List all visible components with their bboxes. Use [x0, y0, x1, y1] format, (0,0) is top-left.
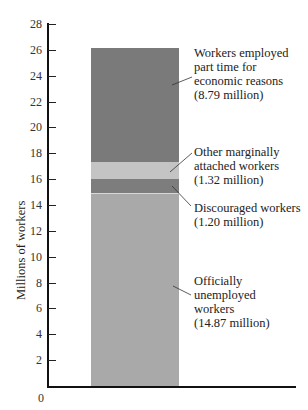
- annotation-officially-unemployed: Officially unemployed workers (14.87 mil…: [194, 274, 270, 330]
- annotation-discouraged: Discouraged workers (1.20 million): [194, 201, 301, 229]
- annotation-other-marginally-attached: Other marginally attached workers (1.32 …: [194, 145, 280, 187]
- annotation-part-time: Workers employed part time for economic …: [194, 46, 288, 102]
